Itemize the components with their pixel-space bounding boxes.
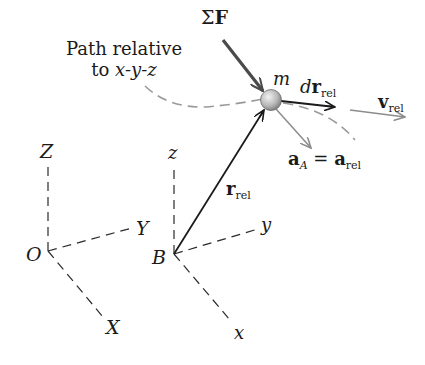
path-label-line1: Path relative [60,38,188,59]
mass-label: m [273,70,290,88]
relative-motion-diagram: Path relative to x-y-z ΣF m drrel vrel a… [0,0,425,365]
v-rel-label: vrel [378,93,404,114]
particle-mass [261,90,282,111]
y-axis-label: y [261,216,271,234]
acceleration-label: aA = arel [288,150,361,171]
x-axis [174,254,230,320]
path-label-line2: to x-y-z [60,59,188,80]
Z-axis-label: Z [40,142,53,161]
dr-rel-label: drrel [300,78,336,99]
X-axis-label: X [106,318,120,337]
acceleration-arrow [276,109,311,148]
X-axis [48,251,103,317]
net-force-arrow [223,40,263,91]
fixed-frame-axes [48,166,132,317]
Y-axis-label: Y [136,219,149,238]
x-axis-label: x [234,324,244,342]
r-rel-label: rrel [226,180,251,201]
origin-B-label: B [152,248,166,267]
path-label: Path relative to x-y-z [60,38,188,80]
z-axis-label: z [168,144,177,162]
Y-axis [48,228,132,251]
net-force-label: ΣF [201,8,228,27]
origin-O-label: O [26,245,42,264]
